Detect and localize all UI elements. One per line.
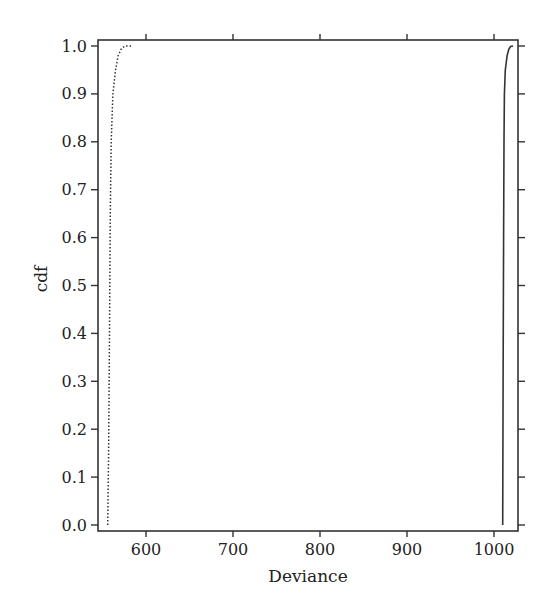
plot-frame: [98, 40, 518, 531]
axis-ticks: 60070080090010000.00.10.20.30.40.50.60.7…: [62, 34, 525, 559]
y-tick-label: 0.2: [62, 420, 87, 439]
y-tick-label: 0.7: [62, 180, 87, 199]
data-series: [108, 46, 513, 525]
y-tick-label: 0.6: [62, 228, 87, 247]
x-tick-label: 1000: [474, 540, 515, 559]
y-tick-label: 1.0: [62, 37, 87, 56]
y-tick-label: 0.0: [62, 516, 87, 535]
x-tick-label: 900: [392, 540, 423, 559]
cdf-chart: 60070080090010000.00.10.20.30.40.50.60.7…: [0, 0, 552, 613]
x-axis-label: Deviance: [268, 566, 347, 586]
plot-border: [98, 40, 518, 531]
y-tick-label: 0.5: [62, 276, 87, 295]
y-tick-label: 0.3: [62, 372, 87, 391]
y-tick-label: 0.1: [62, 468, 87, 487]
dotted-cdf-line: [108, 46, 132, 525]
x-tick-label: 800: [305, 540, 336, 559]
x-tick-label: 700: [218, 540, 249, 559]
y-tick-label: 0.9: [62, 84, 87, 103]
y-tick-label: 0.4: [62, 324, 87, 343]
x-tick-label: 600: [131, 540, 162, 559]
y-axis-label: cdf: [31, 264, 51, 292]
solid-cdf-line: [503, 46, 513, 525]
y-tick-label: 0.8: [62, 132, 87, 151]
